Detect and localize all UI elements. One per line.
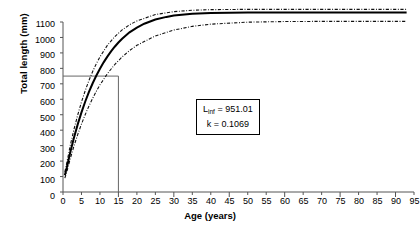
growth-curve-chart: Total length (mm) Age (years) 1100 1000 … [0, 0, 420, 249]
k-annotation: k = 0.1069 [203, 118, 253, 130]
parameter-annotation-box: Linf = 951.01 k = 0.1069 [196, 99, 260, 135]
fitted-growth-curve [65, 13, 407, 176]
linf-annotation: Linf = 951.01 [203, 103, 253, 118]
reference-lines [63, 76, 118, 192]
linf-subscript: inf [208, 108, 215, 115]
linf-value: = 951.01 [215, 104, 253, 114]
upper-confidence-band [65, 9, 407, 172]
x-axis-ticks [63, 192, 414, 197]
